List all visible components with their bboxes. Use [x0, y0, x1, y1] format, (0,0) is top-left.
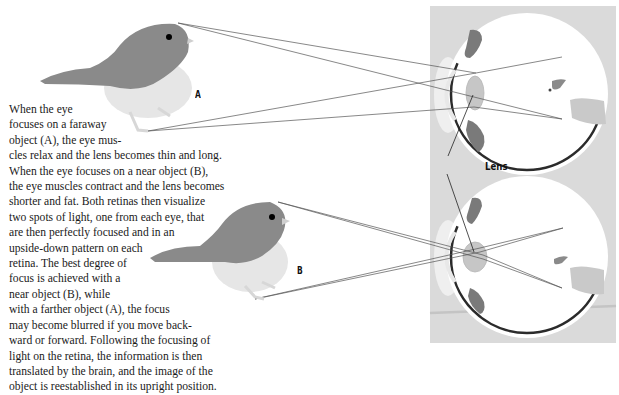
lens-label: Lens — [485, 160, 508, 173]
text-line: may become blurred if you move back- — [9, 318, 309, 333]
text-line: near object (B), while — [9, 287, 309, 302]
description-text: When the eye focuses on a faraway object… — [9, 102, 309, 395]
text-line: object (A), the eye mus- — [9, 133, 309, 148]
text-line: the eye muscles contract and the lens be… — [9, 179, 309, 194]
text-line: object is reestablished in its upright p… — [9, 379, 309, 394]
text-line: When the eye — [9, 102, 309, 117]
text-line: are then perfectly focused and in an — [9, 225, 309, 240]
text-line: with a farther object (A), the focus — [9, 302, 309, 317]
text-line: focus is achieved with a — [9, 271, 309, 286]
text-line: focuses on a faraway — [9, 117, 309, 132]
text-line: retina. The best degree of — [9, 256, 309, 271]
text-line: light on the retina, the information is … — [9, 349, 309, 364]
text-line: shorter and fat. Both retinas then visua… — [9, 194, 309, 209]
text-line: When the eye focuses on a near object (B… — [9, 164, 309, 179]
text-line: two spots of light, one from each eye, t… — [9, 210, 309, 225]
text-line: ward or forward. Following the focusing … — [9, 333, 309, 348]
text-line: cles relax and the lens becomes thin and… — [9, 148, 309, 163]
text-line: upside-down pattern on each — [9, 241, 309, 256]
label-a: A — [195, 89, 201, 100]
bird-eye — [166, 34, 172, 40]
text-line: translated by the brain, and the image o… — [9, 364, 309, 379]
